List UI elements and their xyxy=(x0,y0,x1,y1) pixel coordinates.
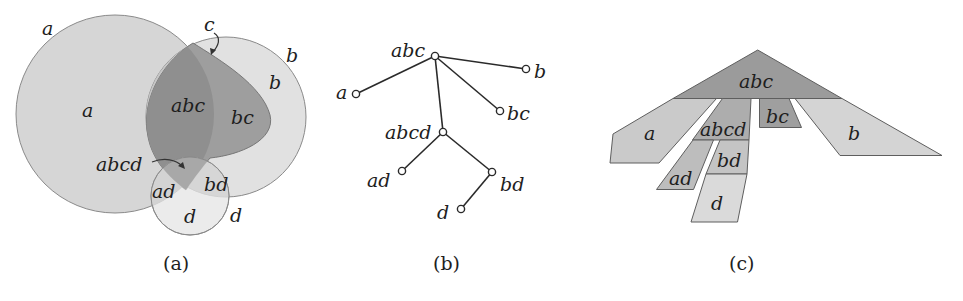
edge-abc-a xyxy=(356,56,435,94)
node-label-bd: bd xyxy=(500,173,524,195)
node-ad xyxy=(398,167,405,174)
zone-label-bc: bc xyxy=(231,106,254,128)
edge-bd-d xyxy=(461,172,492,209)
node-abc xyxy=(431,52,438,59)
zone-label-d: d xyxy=(184,205,196,227)
piece-label-b: b xyxy=(848,122,860,144)
node-label-a: a xyxy=(336,81,347,103)
node-label-bc: bc xyxy=(507,102,530,124)
piece-b xyxy=(795,99,942,156)
caption-b: (b) xyxy=(433,252,460,274)
node-bd xyxy=(488,168,495,175)
node-d xyxy=(457,205,464,212)
outer-label-a: a xyxy=(42,17,53,39)
piece-label-bc: bc xyxy=(766,105,789,127)
piece-label-abc: abc xyxy=(739,70,773,92)
node-a xyxy=(352,90,359,97)
outer-label-d: d xyxy=(230,204,242,226)
zone-label-abc: abc xyxy=(171,94,205,116)
piece-label-abcd: abcd xyxy=(700,118,746,140)
panel-a-euler-diagram: a a c b b abc bc abcd ad bd d d (a) xyxy=(16,13,306,274)
piece-label-bd: bd xyxy=(717,149,741,171)
node-label-abc: abc xyxy=(391,39,425,61)
outer-label-b: b xyxy=(286,44,298,66)
piece-label-ad: ad xyxy=(669,167,693,189)
caption-c: (c) xyxy=(729,252,754,274)
zone-label-bd: bd xyxy=(204,173,228,195)
piece-label-d: d xyxy=(711,192,723,214)
caption-a: (a) xyxy=(163,252,189,274)
piece-label-a: a xyxy=(644,122,655,144)
outer-label-c: c xyxy=(204,13,215,35)
node-label-abcd: abcd xyxy=(385,121,431,143)
node-b xyxy=(522,65,529,72)
edge-abc-abcd xyxy=(435,56,443,132)
euler-diagram-figure: a a c b b abc bc abcd ad bd d d (a) abc … xyxy=(0,0,963,301)
edge-abcd-bd xyxy=(443,132,492,172)
node-label-b: b xyxy=(534,60,546,82)
zone-label-b: b xyxy=(269,71,281,93)
zone-label-ad: ad xyxy=(152,180,176,202)
node-label-d: d xyxy=(437,201,449,223)
node-label-ad: ad xyxy=(367,169,391,191)
panel-c-polygon-tree xyxy=(610,50,942,222)
node-bc xyxy=(496,107,503,114)
panel-b-labels: abc a b bc abcd ad bd d (b) xyxy=(336,39,546,274)
node-abcd xyxy=(439,128,446,135)
zone-label-a: a xyxy=(82,99,93,121)
zone-label-abcd: abcd xyxy=(96,153,142,175)
